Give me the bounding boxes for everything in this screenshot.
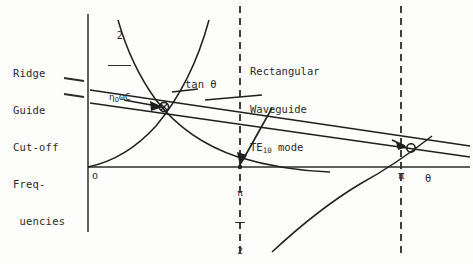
rectangular-waveguide-annotation: Rectangular Waveguide TE10 mode [250,40,320,168]
fraction-bar [108,65,131,66]
pi-half-denominator: 2 [232,245,248,256]
pi-half-numerator: π [232,187,248,198]
origin-label: o [92,170,98,182]
omega-c: ωC [119,91,130,102]
leader-dash-lower [64,94,84,97]
te-text: TE [250,141,263,153]
fraction-denominator: ηOωC [108,91,131,104]
ridge-cutoff-annotation: Ridge Guide Cut-off Freq- uencies [13,42,65,240]
ridge-line-1: Ridge [13,67,65,79]
hyperbola-equation-label: 2 ηOωC [108,6,131,116]
ridge-line-3: Cut-off [13,141,65,153]
fraction-numerator: 2 [108,30,131,42]
rwg-line-2: Waveguide [250,103,320,116]
pi-half-bar [235,222,245,223]
rwg-line-1: Rectangular [250,65,320,78]
tick-label-pi-over-2: π 2 [232,165,248,264]
te-mode-subscript: 10 [263,146,272,155]
tan-theta-label: tan θ [185,78,217,90]
x-axis-label: θ [425,172,431,184]
leader-dash-upper [64,78,84,81]
mode-text: mode [272,141,304,153]
rwg-line-3: TE10 mode [250,141,320,155]
ridge-line-2: Guide [13,104,65,116]
ridge-line-4: Freq- [13,178,65,190]
tan-branch-1 [88,20,209,167]
ridge-line-5: uencies [13,215,65,227]
tick-label-pi: π [398,169,404,181]
